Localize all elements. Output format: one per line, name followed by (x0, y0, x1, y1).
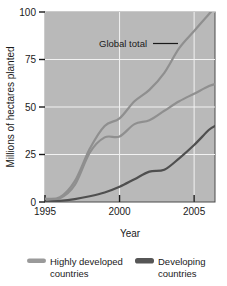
y-tick-label: 100 (19, 7, 36, 18)
legend-entry-highly-developed[interactable]: Highly developed countries (27, 256, 123, 279)
x-tick-label: 2000 (108, 206, 131, 217)
legend-swatch-highly-developed (27, 259, 46, 264)
x-axis-label: Year (120, 228, 141, 239)
line-chart-svg: 0255075100 199520002005 Global total Yea… (0, 0, 227, 286)
x-axis-tick-labels: 199520002005 (34, 206, 206, 217)
legend-label-highly-developed-line1: Highly developed (50, 256, 123, 267)
y-axis-label: Millions of hectares planted (5, 46, 16, 167)
annotation-label: Global total (99, 38, 147, 49)
y-axis-ticks (39, 12, 45, 202)
legend-label-highly-developed-line2: countries (50, 268, 89, 279)
legend-label-developing-line2: countries (158, 268, 197, 279)
legend-swatch-developing (135, 258, 154, 264)
y-tick-label: 50 (25, 102, 37, 113)
chart-legend: Highly developed countries Developing co… (27, 256, 206, 279)
x-tick-label: 1995 (34, 206, 57, 217)
x-tick-label: 2005 (183, 206, 206, 217)
legend-entry-developing[interactable]: Developing countries (135, 256, 206, 279)
legend-label-developing-line1: Developing (158, 256, 206, 267)
y-tick-label: 75 (25, 54, 37, 65)
y-axis-tick-labels: 0255075100 (19, 7, 36, 208)
y-tick-label: 25 (25, 149, 37, 160)
chart-figure: 0255075100 199520002005 Global total Yea… (0, 0, 227, 286)
